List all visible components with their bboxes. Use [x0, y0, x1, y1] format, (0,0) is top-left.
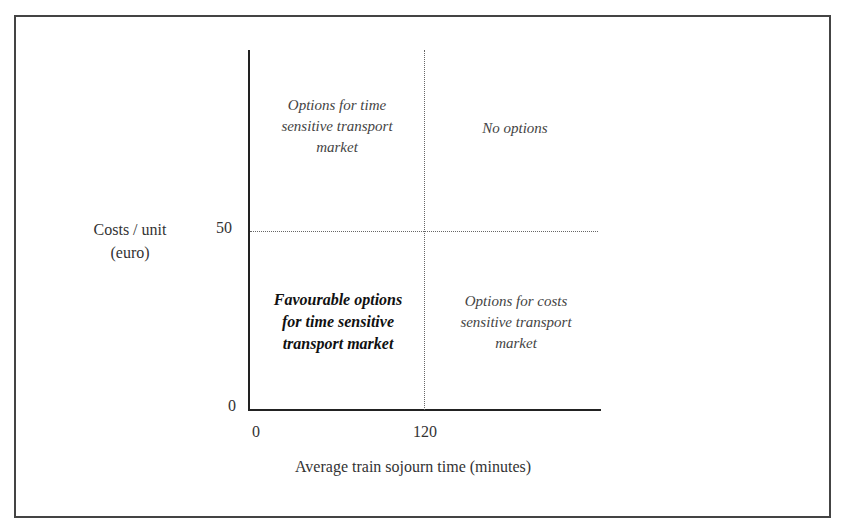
quadrant-bottom-right: Options for costs sensitive transport ma…	[436, 291, 596, 354]
quadrant-text-line: No options	[440, 118, 590, 139]
quadrant-text-line: market	[262, 137, 412, 158]
quadrant-top-left: Options for time sensitive transport mar…	[262, 95, 412, 158]
x-tick-120: 120	[413, 423, 437, 441]
y-threshold-dotted-line	[250, 231, 598, 232]
quadrant-text-line: Options for time	[262, 95, 412, 116]
y-axis-label-line1: Costs / unit	[70, 218, 190, 241]
y-axis-label-line2: (euro)	[70, 241, 190, 264]
quadrant-text-line: Favourable options	[252, 289, 424, 311]
y-tick-50: 50	[216, 219, 232, 237]
quadrant-text-line: Options for costs	[436, 291, 596, 312]
quadrant-text-line: sensitive transport	[262, 116, 412, 137]
x-tick-0: 0	[252, 423, 260, 441]
quadrant-top-right: No options	[440, 118, 590, 139]
x-threshold-dotted-line	[424, 50, 425, 410]
quadrant-text-line: market	[436, 333, 596, 354]
quadrant-text-line: sensitive transport	[436, 312, 596, 333]
quadrant-text-line: transport market	[252, 333, 424, 355]
quadrant-text-line: for time sensitive	[252, 311, 424, 333]
diagram-frame	[14, 15, 831, 518]
x-axis-label: Average train sojourn time (minutes)	[295, 458, 615, 476]
y-axis-label: Costs / unit (euro)	[70, 218, 190, 264]
y-tick-0: 0	[228, 397, 236, 415]
quadrant-bottom-left: Favourable options for time sensitive tr…	[252, 289, 424, 355]
